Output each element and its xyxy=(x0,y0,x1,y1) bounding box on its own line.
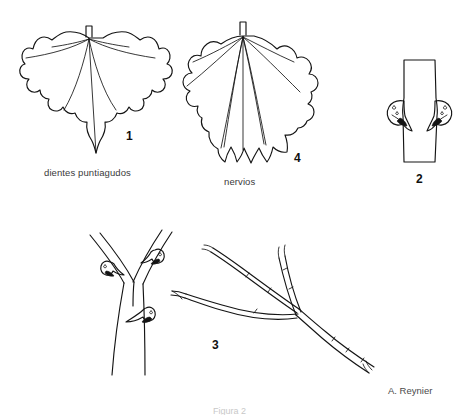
figure-2-stem-node xyxy=(387,60,451,162)
figure-3b-shoot-tendril xyxy=(171,245,374,373)
figure-number-1: 1 xyxy=(126,129,133,143)
plate-drawing xyxy=(0,0,466,415)
figure-3a-forked-branch xyxy=(90,230,172,375)
figure-number-4: 4 xyxy=(294,151,301,165)
artist-signature: A. Reynier xyxy=(388,385,432,396)
caption-dientes-puntiagudos: dientes puntiagudos xyxy=(44,167,131,178)
figure-4-leaf-veins xyxy=(183,22,318,163)
figure-number-2: 2 xyxy=(416,172,423,186)
figure-1-leaf-pointed-teeth xyxy=(20,26,173,153)
plate-caption: Figura 2 xyxy=(213,406,246,415)
figure-number-3: 3 xyxy=(212,338,219,352)
caption-nervios: nervios xyxy=(224,176,255,187)
botanical-plate: dientes puntiagudos nervios 1 4 2 3 A. R… xyxy=(0,0,466,415)
